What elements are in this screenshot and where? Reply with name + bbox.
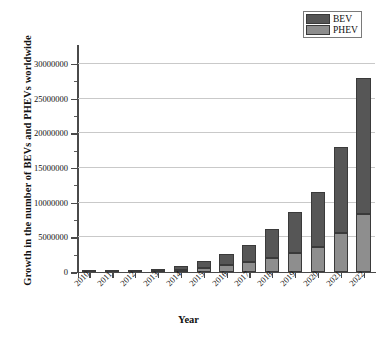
gridline: [78, 167, 375, 168]
gridline: [78, 63, 375, 64]
gridline: [78, 132, 375, 133]
y-axis-tick: [71, 99, 77, 101]
y-axis-tick-label: 20000000: [34, 128, 68, 138]
y-axis-tick: [71, 203, 77, 205]
y-axis-minor-tick: [74, 116, 78, 117]
y-axis-tick: [71, 168, 77, 170]
x-axis-tick: [78, 272, 79, 278]
y-axis-tick: [71, 272, 77, 274]
bar-segment-bev[interactable]: [197, 261, 211, 268]
y-axis-minor-tick: [74, 220, 78, 221]
bar-segment-bev[interactable]: [242, 245, 256, 262]
bar-segment-bev[interactable]: [334, 147, 348, 233]
y-axis-minor-tick: [74, 151, 78, 152]
legend-swatch-bev: [306, 14, 330, 24]
bar-stack[interactable]: [356, 78, 370, 272]
y-axis-tick-label: 25000000: [34, 94, 68, 104]
legend-item-bev[interactable]: BEV: [306, 14, 358, 24]
y-axis-tick-label: 15000000: [34, 163, 68, 173]
plot-area: [78, 57, 375, 272]
bar-stack[interactable]: [265, 229, 279, 272]
y-axis-title: Growth in the number of BEVs and PHEVs w…: [22, 16, 33, 306]
gridline: [78, 202, 375, 203]
legend-item-phev[interactable]: PHEV: [306, 25, 358, 35]
bar-segment-bev[interactable]: [311, 192, 325, 246]
y-axis-tick-label: 30000000: [34, 59, 68, 69]
bar-segment-phev[interactable]: [334, 233, 348, 272]
bar-stack[interactable]: [288, 212, 302, 272]
bar-segment-bev[interactable]: [288, 212, 302, 254]
y-axis-tick-label: 5000000: [38, 232, 68, 242]
legend-label: BEV: [333, 14, 352, 24]
bar-stack[interactable]: [242, 245, 256, 272]
y-axis-minor-tick: [74, 81, 78, 82]
bar-stack[interactable]: [311, 192, 325, 272]
y-axis-tick: [71, 237, 77, 239]
bar-stack[interactable]: [334, 147, 348, 272]
x-axis-title: Year: [0, 314, 377, 325]
gridline: [78, 98, 375, 99]
y-axis-tick-label: 0: [64, 267, 68, 277]
legend: BEVPHEV: [303, 11, 362, 38]
y-axis-minor-tick: [74, 255, 78, 256]
bar-segment-bev[interactable]: [356, 78, 370, 215]
y-axis-tick-label: 10000000: [34, 198, 68, 208]
legend-swatch-phev: [306, 25, 330, 35]
y-axis-tick: [71, 64, 77, 66]
bar-segment-bev[interactable]: [219, 254, 233, 265]
chart-container: Growth in the number of BEVs and PHEVs w…: [0, 0, 377, 339]
legend-label: PHEV: [333, 25, 358, 35]
bar-segment-phev[interactable]: [356, 214, 370, 272]
gridline: [78, 236, 375, 237]
y-axis-tick: [71, 133, 77, 135]
bar-segment-bev[interactable]: [265, 229, 279, 258]
y-axis-minor-tick: [74, 185, 78, 186]
